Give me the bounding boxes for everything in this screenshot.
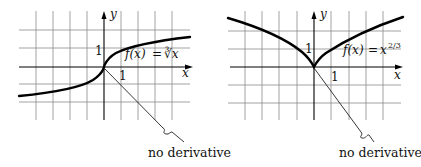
x-tick-label: 1 <box>331 70 339 84</box>
x-axis-label: x <box>394 68 401 82</box>
function-label-left: f(x) = ∛x <box>124 46 179 61</box>
function-exponent: 2/3 <box>388 41 401 50</box>
y-axis-arrow-icon <box>102 11 107 19</box>
y-axis-label: y <box>319 7 327 21</box>
function-lhs: f(x) <box>124 47 146 61</box>
y-tick-label: 1 <box>95 44 103 58</box>
y-axis-arrow-icon <box>312 11 317 19</box>
no-derivative-caption-right: no derivative <box>339 145 421 160</box>
x-tick-label: 1 <box>119 69 127 83</box>
function-lhs: f(x) <box>342 43 364 57</box>
figure-canvas: y x 1 1 f(x) = ∛x no derivative <box>0 0 421 167</box>
x-axis-label: x <box>182 66 189 80</box>
function-rhs: ∛x <box>164 46 179 61</box>
figure-cube-root: y x 1 1 f(x) = ∛x no derivative <box>19 7 231 160</box>
no-derivative-caption-left: no derivative <box>148 145 231 160</box>
function-eq: = <box>368 43 378 57</box>
function-label-right: f(x) = x 2/3 <box>342 41 401 57</box>
y-axis-label: y <box>109 7 117 21</box>
function-eq: = <box>152 47 162 61</box>
function-base: x <box>380 43 387 57</box>
two-thirds-power-curve <box>228 17 403 67</box>
y-tick-label: 1 <box>305 42 313 56</box>
figure-two-thirds-power: y x 1 1 f(x) = x 2/3 no derivative <box>228 7 421 160</box>
pointer-line-right <box>314 68 374 142</box>
